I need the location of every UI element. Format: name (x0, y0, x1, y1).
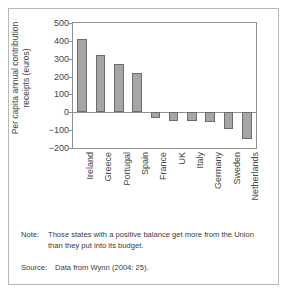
x-tick-label: Ireland (85, 152, 95, 180)
bar (205, 112, 215, 122)
bar (187, 112, 197, 120)
bar (151, 112, 161, 118)
source-text: Data from Wynn (2004: 25). (55, 262, 269, 273)
bar (132, 73, 142, 113)
bar (114, 64, 124, 112)
notes-block: Note: Those states with a positive balan… (21, 229, 269, 273)
bar (224, 112, 234, 129)
x-tick-label: Spain (140, 152, 150, 175)
y-tick-label: −100 (35, 126, 69, 135)
x-axis-labels: IrelandGreecePortugalSpainFranceUKItalyG… (72, 152, 257, 222)
x-tick-label: UK (177, 152, 187, 165)
bars-layer (73, 23, 256, 148)
bar (77, 39, 87, 112)
y-tick-mark (69, 148, 73, 149)
figure-container: Per capita annual contribution receipts … (8, 8, 279, 285)
chart-region: Per capita annual contribution receipts … (9, 9, 280, 224)
y-tick-label: 300 (35, 54, 69, 63)
note-label: Note: (21, 229, 48, 240)
y-tick-label: 500 (35, 19, 69, 28)
note-text: Those states with a positive balance get… (48, 229, 269, 251)
y-tick-label: 100 (35, 90, 69, 99)
y-tick-label: 0 (35, 108, 69, 117)
y-tick-label: 400 (35, 36, 69, 45)
note-row: Note: Those states with a positive balan… (21, 229, 269, 251)
x-tick-label: Greece (103, 152, 113, 182)
y-tick-label: −200 (35, 144, 69, 153)
bar (242, 112, 252, 138)
x-tick-label: Portugal (122, 152, 132, 186)
source-label: Source: (21, 262, 55, 273)
bar (96, 55, 106, 112)
plot-area: 5004003002001000−100−200 (72, 22, 257, 149)
x-tick-label: Germany (213, 152, 223, 189)
x-tick-label: Sweden (232, 152, 242, 185)
x-tick-label: France (158, 152, 168, 180)
bar (169, 112, 179, 120)
y-tick-label: 200 (35, 72, 69, 81)
x-tick-label: Italy (195, 152, 205, 169)
source-row: Source: Data from Wynn (2004: 25). (21, 262, 269, 273)
x-tick-label: Netherlands (250, 152, 260, 201)
